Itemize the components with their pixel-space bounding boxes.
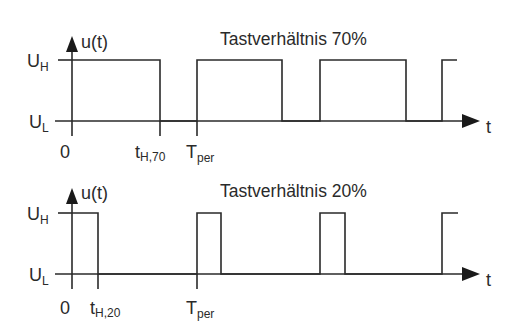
level-high-label: UH xyxy=(27,51,49,74)
pwm-waveform-20 xyxy=(72,213,458,274)
diagram-title: Tastverhältnis 70% xyxy=(220,29,367,49)
period-label: Tper xyxy=(186,142,214,165)
x-axis-label: t xyxy=(486,117,491,137)
pwm-diagrams: u(t) Tastverhältnis 70% t UH UL 0 tH,70 … xyxy=(0,0,516,331)
diagram-title: Tastverhältnis 20% xyxy=(220,181,367,201)
level-low-label: UL xyxy=(29,112,49,135)
x-axis-arrow-icon xyxy=(462,114,480,128)
level-high-label: UH xyxy=(27,204,49,227)
y-axis-label: u(t) xyxy=(81,32,108,52)
x-axis-label: t xyxy=(486,270,491,290)
origin-label: 0 xyxy=(60,298,70,318)
origin-label: 0 xyxy=(60,142,70,162)
pwm-waveform-70 xyxy=(72,60,457,121)
y-axis-arrow-icon xyxy=(66,188,78,204)
diagram-duty-70: u(t) Tastverhältnis 70% t UH UL 0 tH,70 … xyxy=(27,29,491,165)
x-axis-arrow-icon xyxy=(462,267,480,281)
t-high-label: tH,70 xyxy=(135,142,166,164)
diagram-duty-20: u(t) Tastverhältnis 20% t UH UL 0 tH,20 … xyxy=(27,181,491,321)
y-axis-arrow-icon xyxy=(66,36,78,52)
t-high-label: tH,20 xyxy=(90,298,121,320)
level-low-label: UL xyxy=(29,265,49,288)
y-axis-label: u(t) xyxy=(81,183,108,203)
period-label: Tper xyxy=(186,298,214,321)
